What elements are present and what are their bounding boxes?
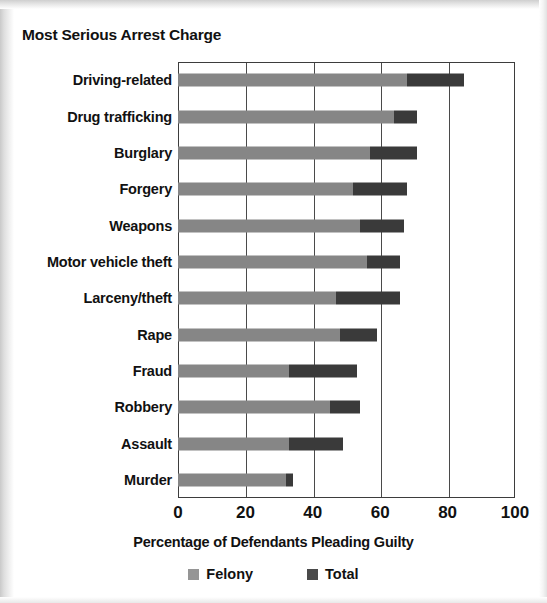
category-label: Burglary [0,145,172,161]
x-tick-label: 40 [303,503,322,523]
x-axis-tick-labels: 020406080100 [0,503,547,529]
gridline [381,63,382,497]
legend-item: Felony [188,566,253,582]
category-label: Fraud [0,363,172,379]
category-label: Robbery [0,399,172,415]
category-label: Weapons [0,218,172,234]
category-label: Larceny/theft [0,290,172,306]
category-label: Murder [0,472,172,488]
chart-title: Most Serious Arrest Charge [22,26,221,44]
gridline [246,63,247,497]
x-axis-title: Percentage of Defendants Pleading Guilty [0,534,547,550]
scan-edge-bottom [0,597,547,603]
scan-edge-top [0,0,547,9]
x-tick-label: 100 [501,503,529,523]
category-label: Drug trafficking [0,109,172,125]
chart-legend: FelonyTotal [0,566,547,582]
x-tick-label: 60 [371,503,390,523]
category-label: Rape [0,327,172,343]
category-label: Motor vehicle theft [0,254,172,270]
plot-area [178,62,515,498]
legend-item: Total [307,566,359,582]
gridline [449,63,450,497]
x-tick-label: 80 [438,503,457,523]
x-tick-label: 0 [173,503,182,523]
legend-label: Felony [206,566,253,582]
category-label: Assault [0,436,172,452]
chart-page: Most Serious Arrest Charge Driving-relat… [0,0,547,603]
legend-swatch-icon [188,569,199,580]
legend-label: Total [325,566,359,582]
legend-swatch-icon [307,569,318,580]
category-label: Driving-related [0,72,172,88]
gridline [314,63,315,497]
x-tick-label: 20 [236,503,255,523]
category-axis-labels: Driving-relatedDrug traffickingBurglaryF… [0,62,172,498]
category-label: Forgery [0,181,172,197]
